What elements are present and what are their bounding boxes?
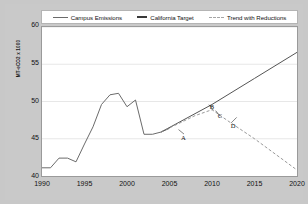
- legend-item-trend-with-reductions: Trend with Reductions: [209, 14, 286, 21]
- series-line: [42, 93, 170, 168]
- annotation-label-d: D: [231, 122, 236, 129]
- x-axis-tick-labels: 1990199520002005201020152020: [41, 180, 298, 192]
- annotation-label-b: B: [210, 103, 214, 110]
- y-tick-label: 40: [15, 172, 39, 179]
- y-axis-tick-labels: 4045505560: [11, 26, 39, 177]
- legend-label-trend-with-reductions: Trend with Reductions: [227, 14, 286, 21]
- x-tick-label: 1990: [22, 180, 62, 187]
- x-tick-label: 2010: [192, 180, 232, 187]
- legend-label-campus-emissions: Campus Emissions: [71, 14, 122, 21]
- x-tick-label: 1995: [65, 180, 105, 187]
- x-tick-label: 2020: [277, 180, 308, 187]
- annotation-arrows: [179, 105, 237, 134]
- legend-label-california-target: California Target: [150, 14, 193, 21]
- chart-legend: Campus Emissions California Target Trend…: [41, 10, 298, 24]
- y-tick-label: 60: [15, 21, 39, 28]
- chart-container: MT-eCO2 x 1000 Campus Emissions Californ…: [0, 0, 308, 204]
- annotation-arrow-a: [179, 130, 185, 135]
- series-layer: [42, 52, 297, 170]
- plot-area: [41, 26, 298, 177]
- x-tick-label: 2005: [150, 180, 190, 187]
- legend-item-california-target: California Target: [137, 14, 193, 21]
- annotation-label-a: A: [181, 134, 186, 141]
- gridlines: [42, 27, 297, 139]
- y-tick-label: 55: [15, 59, 39, 66]
- legend-item-campus-emissions: Campus Emissions: [53, 14, 122, 21]
- y-tick-label: 50: [15, 97, 39, 104]
- y-tick-label: 45: [15, 134, 39, 141]
- chart-card: MT-eCO2 x 1000 Campus Emissions Californ…: [5, 4, 303, 200]
- legend-swatch-campus-emissions: [53, 17, 68, 18]
- legend-swatch-california-target: [137, 16, 147, 18]
- plot-svg: [42, 27, 297, 176]
- annotation-label-c: C: [218, 112, 222, 119]
- x-tick-label: 2000: [107, 180, 147, 187]
- legend-swatch-trend-with-reductions: [209, 17, 224, 18]
- x-tick-label: 2015: [235, 180, 275, 187]
